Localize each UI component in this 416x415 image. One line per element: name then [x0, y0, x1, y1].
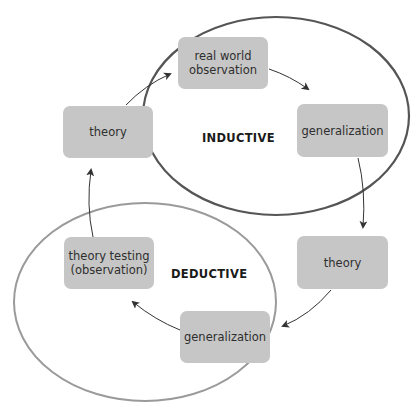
arrow-theory-to-observation	[126, 74, 170, 105]
arrow-observation-to-generalization	[269, 69, 308, 89]
cycle-arrows	[0, 0, 416, 415]
arrow-theory-to-generalization	[283, 290, 331, 326]
arrow-theory-testing-to-theory	[89, 170, 93, 237]
arrow-generalization-to-theory	[358, 158, 364, 227]
arrow-generalization-to-theory-testing	[133, 302, 180, 330]
